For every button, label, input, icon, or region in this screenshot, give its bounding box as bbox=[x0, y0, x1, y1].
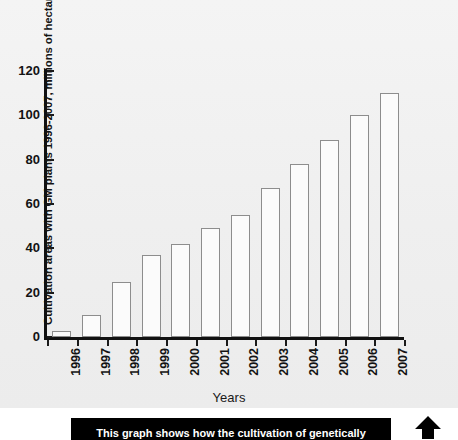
y-tick-label-wrap: 0 bbox=[0, 330, 40, 343]
x-tick-mark bbox=[404, 340, 406, 346]
caption-text: This graph shows how the cultivation of … bbox=[71, 427, 391, 439]
y-tick-label: 0 bbox=[6, 330, 40, 343]
chart-screenshot: Cultivation areas with GM plants 1996-20… bbox=[0, 0, 458, 440]
x-tick-mark bbox=[136, 340, 138, 346]
y-tick-label-wrap: 40 bbox=[0, 241, 40, 254]
y-tick-label: 20 bbox=[6, 286, 40, 299]
bar-2001 bbox=[201, 228, 220, 337]
y-tick-label: 40 bbox=[6, 241, 40, 254]
bar-1998 bbox=[112, 282, 131, 337]
y-tick-label-wrap: 120 bbox=[0, 64, 40, 77]
y-tick-label: 100 bbox=[6, 108, 40, 121]
y-tick-label: 120 bbox=[6, 64, 40, 77]
x-tick-mark bbox=[47, 340, 49, 346]
x-tick-label-1999: 1999 bbox=[158, 348, 172, 388]
bar-2006 bbox=[350, 115, 369, 337]
y-tick-mark bbox=[47, 70, 54, 72]
x-tick-label-2001: 2001 bbox=[218, 348, 232, 388]
bar-2000 bbox=[171, 244, 190, 337]
bar-2005 bbox=[320, 140, 339, 337]
x-tick-label-1997: 1997 bbox=[99, 348, 113, 388]
x-tick-label-2006: 2006 bbox=[366, 348, 380, 388]
bar-2004 bbox=[290, 164, 309, 337]
bar-2003 bbox=[261, 188, 280, 337]
x-tick-mark bbox=[196, 340, 198, 346]
x-tick-label-2007: 2007 bbox=[396, 348, 410, 388]
x-tick-mark bbox=[107, 340, 109, 346]
x-tick-label-2004: 2004 bbox=[307, 348, 321, 388]
y-tick-mark bbox=[47, 114, 54, 116]
y-tick-label-wrap: 60 bbox=[0, 197, 40, 210]
x-tick-label-1998: 1998 bbox=[128, 348, 142, 388]
x-tick-mark bbox=[255, 340, 257, 346]
bar-2007 bbox=[380, 93, 399, 337]
x-tick-label-2000: 2000 bbox=[188, 348, 202, 388]
y-tick-mark bbox=[47, 292, 54, 294]
bar-1997 bbox=[82, 315, 101, 337]
y-tick-label: 60 bbox=[6, 197, 40, 210]
y-tick-mark bbox=[47, 159, 54, 161]
y-tick-label-wrap: 100 bbox=[0, 108, 40, 121]
x-tick-label-2002: 2002 bbox=[247, 348, 261, 388]
y-tick-mark bbox=[47, 247, 54, 249]
x-tick-label-2003: 2003 bbox=[277, 348, 291, 388]
bar-1996 bbox=[52, 331, 71, 337]
x-tick-mark bbox=[345, 340, 347, 346]
figure-panel: Cultivation areas with GM plants 1996-20… bbox=[0, 0, 458, 408]
y-tick-label-wrap: 20 bbox=[0, 286, 40, 299]
y-tick-label-wrap: 80 bbox=[0, 153, 40, 166]
y-tick-mark bbox=[47, 203, 54, 205]
x-axis-line bbox=[44, 337, 404, 340]
x-tick-mark bbox=[315, 340, 317, 346]
x-tick-mark bbox=[166, 340, 168, 346]
x-tick-mark bbox=[374, 340, 376, 346]
bar-1999 bbox=[142, 255, 161, 337]
up-arrow-icon bbox=[408, 414, 448, 440]
x-tick-mark bbox=[77, 340, 79, 346]
bar-2002 bbox=[231, 215, 250, 337]
x-axis-title: Years bbox=[0, 390, 458, 405]
caption-banner: This graph shows how the cultivation of … bbox=[71, 418, 391, 440]
y-tick-label: 80 bbox=[6, 153, 40, 166]
y-axis-title: Cultivation areas with GM plants 1996-20… bbox=[40, 0, 56, 325]
x-tick-mark bbox=[285, 340, 287, 346]
x-tick-label-1996: 1996 bbox=[69, 348, 83, 388]
x-tick-label-2005: 2005 bbox=[337, 348, 351, 388]
x-tick-mark bbox=[226, 340, 228, 346]
